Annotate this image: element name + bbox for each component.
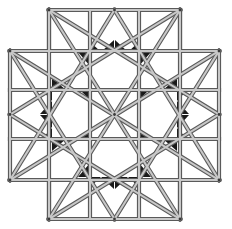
lattice-node <box>218 113 221 116</box>
lattice-bar <box>10 51 115 219</box>
lattice-bar <box>10 10 180 115</box>
lattice-node <box>48 218 51 221</box>
lattice-bar <box>10 10 115 180</box>
lattice-node <box>113 113 116 116</box>
lattice-node <box>48 9 51 12</box>
lattice-bar <box>10 115 180 220</box>
lattice-node <box>179 9 182 12</box>
lattice-node <box>9 113 12 116</box>
lattice-node <box>113 9 116 12</box>
lattice-bar <box>115 51 220 219</box>
lattice-node <box>218 50 221 53</box>
lattice-node <box>113 218 116 221</box>
lattice-nodes <box>9 9 221 221</box>
lattice-bar <box>49 10 219 115</box>
lattice-node <box>9 179 12 182</box>
lattice-node <box>9 50 12 53</box>
lattice-figure <box>0 0 232 229</box>
lattice-bar <box>49 115 219 220</box>
lattice-node <box>218 179 221 182</box>
lattice-node <box>179 218 182 221</box>
lattice-bar <box>115 10 220 180</box>
